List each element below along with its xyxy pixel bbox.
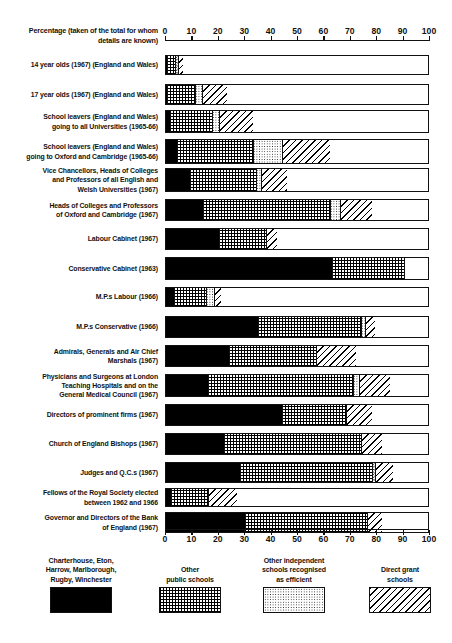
stacked-bar xyxy=(165,139,429,164)
legend-swatch xyxy=(263,587,325,613)
row-label: Fellows of the Royal Society electedbetw… xyxy=(8,488,158,506)
row-label: Judges and Q.C.s (1967) xyxy=(8,468,158,477)
row-label: School leavers (England and Wales)going … xyxy=(8,112,158,130)
segment-public xyxy=(177,140,254,163)
axis-tick-label: 100 xyxy=(422,534,436,544)
stacked-bar xyxy=(165,55,429,75)
segment-direct-grant xyxy=(282,140,330,163)
axis-tick-label: 70 xyxy=(345,534,355,544)
segment-public xyxy=(167,56,175,74)
segment-divider xyxy=(372,463,373,482)
axis-tick-label: 40 xyxy=(266,26,276,36)
segment-public xyxy=(219,229,267,249)
row-label-line: Directors of prominent firms (1967) xyxy=(8,410,158,419)
row-label-line: Welsh Universities (1967) xyxy=(8,185,158,194)
row-label: Directors of prominent firms (1967) xyxy=(8,410,158,419)
legend-swatch xyxy=(369,587,431,613)
chart-row: Heads of Colleges and Professorsof Oxfor… xyxy=(0,199,452,221)
axis-tick-label: 90 xyxy=(398,26,408,36)
segment-public xyxy=(208,375,353,396)
segment-divider xyxy=(219,229,220,249)
segment-direct-grant xyxy=(208,489,237,506)
legend-label-line: as efficient xyxy=(238,575,350,584)
chart-row: 17 year olds (1967) (England and Wales) xyxy=(0,84,452,105)
legend-label-line: Direct grant xyxy=(352,565,448,574)
axis-tick xyxy=(165,36,166,41)
stacked-bar xyxy=(165,316,429,338)
row-label: Church of England Bishops (1967) xyxy=(8,439,158,448)
stacked-bar xyxy=(165,168,429,192)
segment-public xyxy=(190,169,256,191)
row-label-line: M.P.s Labour (1966) xyxy=(8,292,158,301)
legend-label: Otherpublic schools xyxy=(140,556,240,584)
segment-divider xyxy=(195,85,196,104)
segment-divider xyxy=(202,85,203,104)
segment-divider xyxy=(332,258,333,279)
segment-divider xyxy=(177,140,178,163)
segment-direct-grant xyxy=(359,375,391,396)
segment-divider xyxy=(174,288,175,306)
legend-label-line: Other xyxy=(140,565,240,574)
chart-row: School leavers (England and Wales)going … xyxy=(0,139,452,164)
row-label-line: Teaching Hospitals and on the xyxy=(8,381,158,390)
row-label-line: Governor and Directors of the Bank xyxy=(8,513,158,522)
segment-divider xyxy=(404,258,405,279)
segment-public xyxy=(258,317,361,337)
row-label-line: Conservative Cabinet (1963) xyxy=(8,264,158,273)
segment-divider xyxy=(253,140,254,163)
row-label: 17 year olds (1967) (England and Wales) xyxy=(8,90,158,99)
row-label-line: Labour Cabinet (1967) xyxy=(8,234,158,243)
segment-direct-grant xyxy=(214,288,222,306)
chart-row: Judges and Q.C.s (1967) xyxy=(0,462,452,483)
legend-label-line: schools recognised xyxy=(238,565,350,574)
chart-row: Church of England Bishops (1967) xyxy=(0,433,452,455)
chart-row: M.P.s Labour (1966) xyxy=(0,287,452,307)
stacked-bar-chart: Percentage (taken of the total for whom … xyxy=(0,0,452,643)
legend-label-line: Charterhouse, Eton, xyxy=(22,556,140,565)
axis-tick-label: 50 xyxy=(292,534,302,544)
legend-label-line: Rugby, Winchester xyxy=(22,575,140,584)
segment-independent xyxy=(212,111,219,132)
row-label-line: Physicians and Surgeons at London xyxy=(8,372,158,381)
segment-clarendon xyxy=(166,405,282,425)
stacked-bar xyxy=(165,199,429,221)
chart-row: Labour Cabinet (1967) xyxy=(0,228,452,250)
axis-tick-label: 20 xyxy=(213,534,223,544)
segment-divider xyxy=(361,434,362,454)
segment-public xyxy=(332,258,403,279)
row-label: M.P.s Labour (1966) xyxy=(8,292,158,301)
segment-clarendon xyxy=(166,229,219,249)
chart-row: Fellows of the Royal Society electedbetw… xyxy=(0,488,452,507)
axis-tick xyxy=(350,36,351,41)
row-label-line: School leavers (England and Wales) xyxy=(8,112,158,121)
segment-divider xyxy=(240,463,241,482)
segment-divider xyxy=(212,111,213,132)
axis-tick xyxy=(244,36,245,41)
row-label-line: General Medical Council (1967) xyxy=(8,390,158,399)
chart-row: Directors of prominent firms (1967) xyxy=(0,404,452,426)
segment-divider xyxy=(175,56,176,74)
row-label-line: School leavers (England and Wales) xyxy=(8,142,158,151)
segment-divider xyxy=(208,375,209,396)
segment-divider xyxy=(190,169,191,191)
stacked-bar xyxy=(165,462,429,483)
row-label-line: 17 year olds (1967) (England and Wales) xyxy=(8,90,158,99)
axis-tick-label: 100 xyxy=(422,26,436,36)
chart-row: Vice Chancellors, Heads of Collegesand P… xyxy=(0,168,452,192)
legend-item: Charterhouse, Eton,Harrow, Marlborough,R… xyxy=(22,556,140,613)
stacked-bar xyxy=(165,287,429,307)
segment-clarendon xyxy=(166,288,174,306)
stacked-bar xyxy=(165,228,429,250)
segment-direct-grant xyxy=(219,111,253,132)
axis-tick-label: 60 xyxy=(319,26,329,36)
segment-public xyxy=(224,434,361,454)
segment-divider xyxy=(353,375,354,396)
legend-swatch xyxy=(159,587,221,613)
segment-divider xyxy=(167,56,168,74)
row-label-line: Vice Chancellors, Heads of Colleges xyxy=(8,166,158,175)
segment-clarendon xyxy=(166,258,332,279)
segment-divider xyxy=(282,405,283,425)
stacked-bar xyxy=(165,404,429,426)
top-axis-scale: 0102030405060708090100 xyxy=(165,28,429,42)
segment-divider xyxy=(256,169,257,191)
